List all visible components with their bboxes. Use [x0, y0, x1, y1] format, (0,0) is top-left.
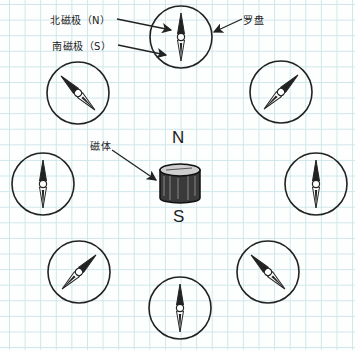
compass-top-left: [47, 62, 109, 124]
compass-needle-icon: [248, 252, 287, 291]
compass-needle-icon: [177, 13, 184, 61]
compass-needle-icon: [176, 284, 183, 332]
compass-top: [150, 6, 212, 68]
north-pole-label: 北磁极（N）: [50, 12, 110, 27]
diagram-canvas: 北磁极（N） 南磁极（S） 罗盘 磁体 N S: [0, 0, 355, 350]
magnet-north-label: N: [172, 128, 184, 148]
compass-needle-icon: [59, 252, 98, 291]
compass-needle-icon: [58, 73, 97, 112]
magnet-arrow: [112, 150, 156, 180]
south-pole-arrow: [118, 45, 166, 55]
north-pole-arrow: [117, 19, 171, 30]
compass-needle-icon: [312, 160, 319, 208]
magnet-cylinder: [160, 164, 200, 203]
compass-needle-icon: [39, 160, 46, 208]
compass-left: [12, 153, 74, 215]
compass-right: [285, 153, 347, 215]
compass-top-right: [250, 61, 312, 123]
compass-label: 罗盘: [243, 12, 264, 27]
south-pole-label: 南磁极（S）: [52, 38, 111, 53]
compass-needle-icon: [261, 72, 300, 111]
compass-arrow: [214, 19, 242, 32]
magnet-south-label: S: [173, 207, 184, 227]
magnet-label: 磁体: [90, 138, 111, 153]
compass-bottom: [149, 277, 211, 339]
compass-bottom-right: [237, 241, 299, 303]
compass-bottom-left: [48, 241, 110, 303]
